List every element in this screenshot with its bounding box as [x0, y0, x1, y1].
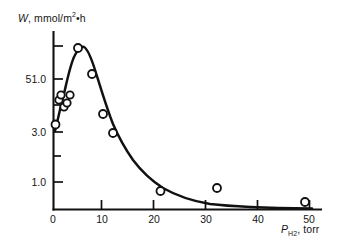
data-point [88, 70, 96, 78]
chart-figure: W, mmol/m2•h PH2, torr 51.0 3.0 1.0 0 10… [0, 0, 341, 252]
plot-area [0, 0, 341, 252]
data-point [99, 110, 107, 118]
data-point [213, 184, 221, 192]
data-point [301, 198, 309, 206]
data-point [57, 91, 64, 98]
data-point [66, 91, 73, 98]
data-point [52, 121, 60, 129]
data-point-markers [52, 44, 310, 206]
data-point [74, 44, 82, 52]
data-point [109, 129, 117, 137]
data-point [63, 99, 70, 106]
data-point [157, 187, 165, 195]
